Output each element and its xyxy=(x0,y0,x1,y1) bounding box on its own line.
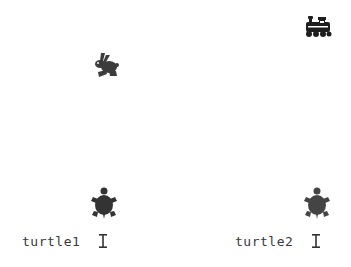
rabbit-icon[interactable] xyxy=(92,51,120,79)
text-cursor-icon xyxy=(98,233,108,249)
turtle-icon[interactable] xyxy=(89,187,119,221)
turtle2-label: turtle2 xyxy=(235,235,293,249)
turtle1-label: turtle1 xyxy=(22,235,80,249)
text-cursor-icon xyxy=(311,233,321,249)
turtle-icon[interactable] xyxy=(302,187,332,221)
turtle-graphics-canvas[interactable]: turtle1 turtle2 xyxy=(0,0,351,267)
train-icon[interactable] xyxy=(304,14,332,38)
